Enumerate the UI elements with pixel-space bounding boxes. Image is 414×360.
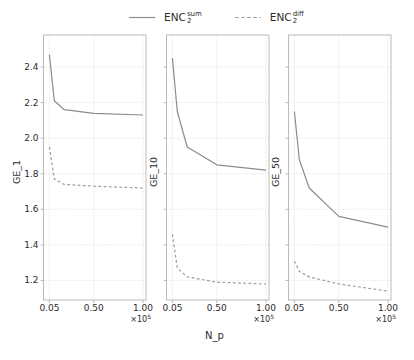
x-axis-offset-label: ×105 [253,313,274,324]
series-line-ENC2_sum [172,58,266,170]
legend-item-enc2-diff: ENCdiff2 [234,10,304,24]
y-tick-label: 1.4 [24,240,39,250]
y-axis-label: GE_10 [148,157,159,187]
axes-frame [167,35,270,300]
legend-label-enc2-diff: ENCdiff2 [270,10,304,24]
chart-svg: 0.050.501.001.21.41.61.82.02.22.4×105GE_… [0,0,414,360]
y-tick-label: 2.0 [24,133,39,143]
x-tick-label: 1.00 [133,303,153,313]
y-tick-label: 1.6 [24,204,39,214]
series-line-ENC2_diff [172,234,266,284]
x-tick-label: 0.50 [207,303,227,313]
series-line-ENC2_diff [49,147,143,188]
legend-label-enc2-sum: ENCsum2 [164,10,202,24]
series-line-ENC2_sum [294,112,388,228]
x-axis-offset-label: ×105 [130,313,151,324]
series-line-ENC2_diff [294,261,388,291]
x-tick-label: 0.50 [84,303,104,313]
x-tick-label: 1.00 [378,303,398,313]
dashed-line-sample-icon [234,12,262,23]
x-axis-label: N_p [205,330,224,341]
axes-frame [289,35,392,300]
x-tick-label: 0.50 [329,303,349,313]
y-tick-label: 2.2 [24,98,38,108]
figure: 0.050.501.001.21.41.61.82.02.22.4×105GE_… [0,0,414,360]
x-tick-label: 0.05 [162,303,182,313]
legend-item-enc2-sum: ENCsum2 [128,10,202,24]
solid-line-sample-icon [128,12,156,23]
y-tick-label: 1.2 [24,275,38,285]
y-axis-label: GE_1 [11,160,22,184]
axes-frame [44,35,147,300]
x-tick-label: 0.05 [284,303,304,313]
x-tick-label: 0.05 [39,303,59,313]
subplot-GE_50: 0.050.501.00×105GE_50 [270,35,398,324]
y-tick-label: 2.4 [24,62,39,72]
x-tick-label: 1.00 [256,303,276,313]
x-axis-offset-label: ×105 [375,313,396,324]
subplot-GE_1: 0.050.501.001.21.41.61.82.02.22.4×105GE_… [11,35,153,324]
subplot-GE_10: 0.050.501.00×105GE_10 [148,35,276,324]
y-tick-label: 1.8 [24,169,39,179]
y-axis-label: GE_50 [270,157,281,187]
series-line-ENC2_sum [49,55,143,115]
legend: ENCsum2 ENCdiff2 [128,10,304,24]
